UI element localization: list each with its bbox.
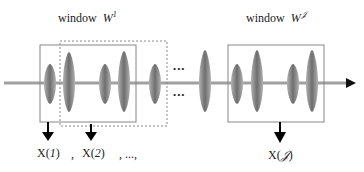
arrow-down-icon [85,124,97,141]
output-base: X( [268,148,281,162]
window-symbol: W [103,11,113,25]
window-1-label: window W1 [58,10,117,26]
arrow-down-icon [42,122,54,141]
output-x2: X(2) [82,146,105,161]
ellipsis-bottom: ••• [173,90,185,100]
output-base: X( [37,146,50,160]
window-word: window [58,11,97,25]
window-superscript: 𝒥 [301,10,307,19]
window-word: window [246,11,285,25]
window-symbol: W [291,11,301,25]
output-close: ) [289,148,293,162]
output-close: ) [101,146,105,160]
window-J-label: window W𝒥 [246,10,307,26]
output-close: ) [56,146,60,160]
arrow-down-icon [274,122,286,143]
output-base: X( [82,146,95,160]
waveform-bursts [44,50,318,112]
output-xJ: X(𝒥) [268,148,293,163]
ellipsis-top: ••• [173,64,185,74]
output-x1: X(1) [37,146,60,161]
separator-2: , ..., [119,147,137,162]
window-superscript: 1 [113,10,117,19]
time-axis [4,78,356,88]
separator-1: , [71,147,74,162]
output-index: 𝒥 [281,148,289,162]
